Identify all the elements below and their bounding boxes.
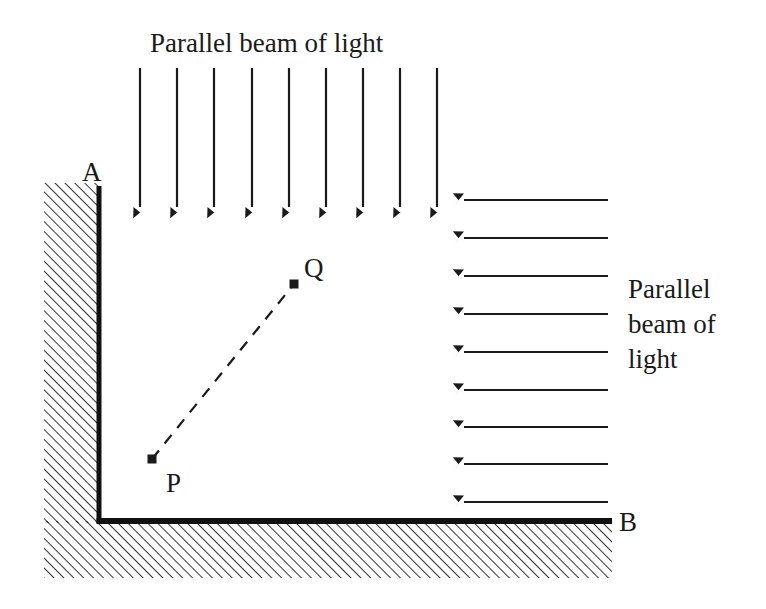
point-p-marker xyxy=(148,455,157,464)
mirror-surface-vertical xyxy=(97,186,102,523)
point-q-marker xyxy=(290,280,299,289)
side-beam-caption-line-2: beam of xyxy=(628,309,716,339)
point-p-label: P xyxy=(166,468,181,498)
diagram-canvas: Parallel beam of light Parallel beam of … xyxy=(0,0,766,609)
mirror-vertex-label-b: B xyxy=(619,507,637,537)
side-beam-caption-line-3: light xyxy=(628,344,678,374)
top-beam-caption: Parallel beam of light xyxy=(150,28,384,58)
mirror-hatch-horizontal-arm xyxy=(44,521,612,578)
point-q-label: Q xyxy=(304,253,324,283)
side-beam-caption-line-1: Parallel xyxy=(628,274,710,304)
mirror-hatch-vertical-arm xyxy=(44,183,99,523)
mirror-surface-horizontal xyxy=(97,518,613,524)
optics-diagram-figure: Parallel beam of light Parallel beam of … xyxy=(0,0,766,609)
figure-background xyxy=(0,0,766,609)
mirror-vertex-label-a: A xyxy=(82,157,102,187)
